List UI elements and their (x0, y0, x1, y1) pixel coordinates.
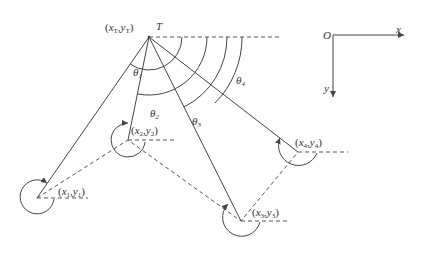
origin-label: O (323, 29, 331, 41)
joint-label-3: (x3,y3) (252, 206, 279, 220)
robot-arm-diagram: (xT,yT) T θ1 θ2 θ3 θ4 (x1,y1) (x2,y2) (x… (0, 0, 425, 255)
target-coordinate-label: (xT,yT) (105, 21, 134, 35)
angle-label-1: θ1 (133, 66, 142, 80)
link-line-3 (149, 37, 241, 221)
angle-arc-2 (138, 37, 207, 95)
target-point (148, 36, 280, 39)
y-axis-label: y (323, 82, 329, 94)
joint-label-1: (x1,y1) (58, 185, 85, 199)
angle-label-2: θ2 (150, 107, 159, 121)
coordinate-axes: O x y (323, 23, 404, 97)
joint-label-2: (x2,y2) (131, 124, 158, 138)
joint-1-rotation-icon (20, 180, 54, 214)
angle-label-3: θ3 (192, 115, 201, 129)
angle-label-4: θ4 (236, 74, 245, 88)
link-line-4 (149, 37, 298, 152)
target-label: T (156, 20, 163, 32)
joint-label-4: (x4,y4) (295, 136, 322, 150)
angle-arc-4 (215, 37, 242, 103)
x-axis-label: x (395, 23, 401, 35)
